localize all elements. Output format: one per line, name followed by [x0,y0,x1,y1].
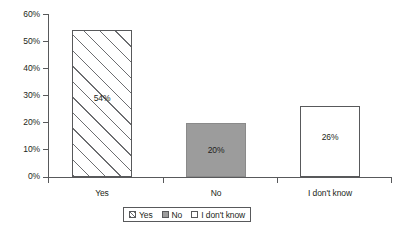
chart-legend: Yes No I don't know [123,207,251,222]
legend-label-yes: Yes [139,210,153,220]
y-tick-mark-30 [43,95,49,96]
y-tick-label-20: 20% [2,118,40,127]
legend-item-no[interactable]: No [162,210,183,220]
legend-item-yes[interactable]: Yes [129,210,153,220]
x-axis-line [48,177,392,178]
x-axis-label-yes: Yes [72,188,132,198]
x-axis-label-no: No [186,188,246,198]
x-tick-sep-1 [163,177,164,183]
y-tick-label-30: 30% [2,91,40,100]
bar-value-i-dont-know: 26% [301,132,359,142]
legend-swatch-hatch-icon [129,211,136,218]
legend-label-no: No [172,210,183,220]
y-tick-label-60: 60% [2,10,40,19]
x-tick-sep-2 [277,177,278,183]
x-tick-start [48,177,49,183]
legend-swatch-solid-icon [162,211,169,218]
legend-item-i-dont-know[interactable]: I don't know [191,210,245,220]
y-tick-label-10: 10% [2,145,40,154]
y-tick-label-40: 40% [2,64,40,73]
x-tick-end [391,177,392,183]
x-axis-label-i-dont-know: I don't know [288,188,372,198]
legend-swatch-open-icon [191,211,198,218]
legend-label-i-dont-know: I don't know [201,210,245,220]
y-tick-mark-10 [43,149,49,150]
bar-value-yes: 54% [73,93,131,103]
bar-chart: 60% 50% 40% 30% 20% 10% 0% 54% 20% 26% Y… [0,0,404,238]
bar-i-dont-know[interactable]: 26% [300,106,360,177]
y-tick-mark-40 [43,68,49,69]
y-tick-mark-50 [43,41,49,42]
bar-no[interactable]: 20% [186,123,246,177]
y-tick-label-0: 0% [2,172,40,181]
y-tick-mark-60 [43,14,49,15]
y-tick-label-50: 50% [2,37,40,46]
bar-value-no: 20% [187,145,245,155]
y-tick-mark-20 [43,122,49,123]
bar-yes[interactable]: 54% [72,30,132,177]
